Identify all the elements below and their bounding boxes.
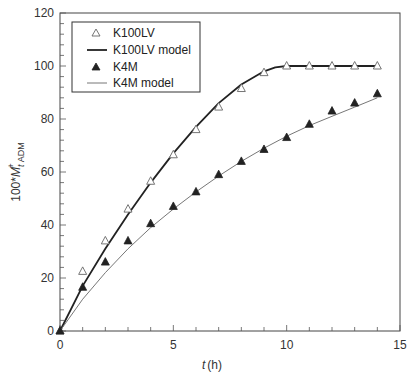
- legend-label-k4m-model: K4M model: [113, 76, 174, 90]
- x-axis-title: t(h): [202, 358, 222, 372]
- y-tick-label: 40: [41, 218, 55, 232]
- filled-triangle-marker: [351, 99, 359, 107]
- y-tick-label: 60: [41, 165, 55, 179]
- open-triangle-marker: [101, 236, 109, 244]
- open-triangle-marker: [79, 267, 87, 275]
- open-triangle-marker: [124, 205, 132, 213]
- filled-triangle-marker: [237, 157, 245, 165]
- x-tick-label: 10: [280, 338, 294, 352]
- svg-text:100*Mt+ADM: 100*Mt+ADM: [6, 142, 26, 201]
- open-triangle-marker: [260, 68, 268, 76]
- filled-triangle-marker: [305, 120, 313, 128]
- y-tick-label: 80: [41, 112, 55, 126]
- x-tick-label: 5: [170, 338, 177, 352]
- y-tick-label: 120: [34, 6, 54, 20]
- filled-triangle-marker: [101, 258, 109, 266]
- legend: K100LV K100LV model K4M K4M model: [72, 22, 200, 92]
- legend-label-k4m: K4M: [113, 60, 138, 74]
- filled-triangle-marker: [283, 133, 291, 141]
- legend-label-k100lv: K100LV: [113, 26, 155, 40]
- y-tick-label: 0: [47, 324, 54, 338]
- legend-label-k100lv-model: K100LV model: [113, 43, 191, 57]
- y-tick-label: 100: [34, 59, 54, 73]
- filled-triangle-marker: [147, 219, 155, 227]
- filled-triangle-marker: [260, 145, 268, 153]
- filled-triangle-marker: [79, 283, 87, 291]
- x-tick-label: 0: [57, 338, 64, 352]
- filled-triangle-marker: [169, 202, 177, 210]
- filled-triangle-marker: [328, 107, 336, 115]
- release-chart: 051015020406080100120 K100LV K100LV mode…: [0, 0, 411, 376]
- series-line: [60, 98, 377, 331]
- filled-triangle-marker: [373, 89, 381, 97]
- y-axis-title: 100*Mt+ADM: [6, 142, 26, 201]
- series-layer: [56, 62, 381, 335]
- y-tick-label: 20: [41, 271, 55, 285]
- filled-triangle-marker: [192, 187, 200, 195]
- filled-triangle-marker: [124, 236, 132, 244]
- x-tick-label: 15: [393, 338, 407, 352]
